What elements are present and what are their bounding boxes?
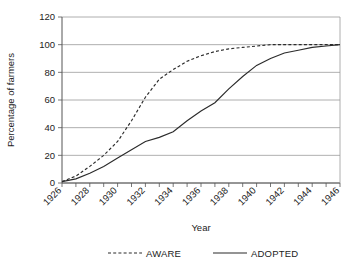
x-tick-label-1934: 1934 <box>152 185 175 208</box>
x-axis-tickmarks <box>62 183 340 187</box>
legend-label-aware: AWARE <box>146 248 181 259</box>
legend-label-adopted: ADOPTED <box>251 248 298 259</box>
gridlines-group <box>62 17 340 183</box>
y-axis-tickmarks <box>58 17 62 183</box>
chart-figure: 020406080100120 192619281930193219341936… <box>0 0 353 269</box>
y-axis-tick-labels: 020406080100120 <box>39 11 55 188</box>
data-series-group <box>62 45 340 182</box>
x-tick-label-1946: 1946 <box>319 185 342 208</box>
x-tick-label-1942: 1942 <box>263 185 286 208</box>
x-tick-label-1938: 1938 <box>207 185 230 208</box>
x-tick-label-1944: 1944 <box>291 185 314 208</box>
x-tick-label-1926: 1926 <box>41 185 64 208</box>
series-adopted <box>62 45 340 182</box>
x-tick-label-1932: 1932 <box>124 185 147 208</box>
series-aware <box>62 45 340 182</box>
chart-legend: AWAREADOPTED <box>108 248 298 259</box>
y-tick-label-100: 100 <box>39 39 55 50</box>
x-axis-tick-labels: 1926192819301932193419361938194019421944… <box>41 185 342 208</box>
y-tick-label-120: 120 <box>39 11 55 22</box>
x-axis-title: Year <box>191 222 210 233</box>
x-tick-label-1936: 1936 <box>180 185 203 208</box>
y-tick-label-80: 80 <box>44 67 55 78</box>
y-tick-label-20: 20 <box>44 150 55 161</box>
x-tick-label-1928: 1928 <box>68 185 91 208</box>
line-chart: 020406080100120 192619281930193219341936… <box>0 0 353 269</box>
x-tick-label-1940: 1940 <box>235 185 258 208</box>
y-axis-title: Percentage of farmers <box>5 53 16 147</box>
y-tick-label-60: 60 <box>44 94 55 105</box>
y-tick-label-40: 40 <box>44 122 55 133</box>
x-tick-label-1930: 1930 <box>96 185 119 208</box>
